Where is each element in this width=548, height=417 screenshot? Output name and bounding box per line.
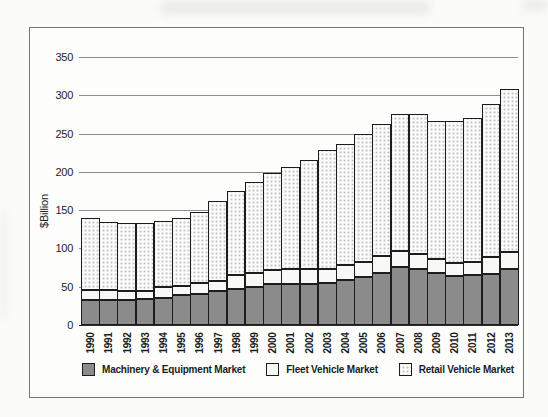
- bar-segment-2010: [445, 121, 464, 263]
- bar-segment-2007: [391, 251, 410, 267]
- x-axis-label-2006: 2006: [376, 332, 387, 353]
- x-axis-label-2010: 2010: [449, 332, 460, 353]
- x-axis-label-1995: 1995: [176, 332, 187, 353]
- bar-segment-2008: [409, 114, 428, 254]
- bar-segment-1992: [117, 291, 136, 300]
- bar-segment-2006: [372, 256, 391, 273]
- bar-segment-2009: [427, 121, 446, 259]
- bar-segment-2003: [318, 283, 337, 325]
- x-axis-label-1990: 1990: [85, 332, 96, 353]
- bar-segment-2006: [372, 273, 391, 325]
- legend-swatch: [399, 363, 412, 376]
- x-axis-label-1994: 1994: [157, 332, 168, 353]
- bar-segment-1990: [81, 300, 100, 325]
- x-axis-label-1991: 1991: [103, 332, 114, 353]
- page-bleedthrough-artifact: [522, 0, 548, 10]
- bar-segment-1994: [154, 298, 173, 325]
- y-tick-label-250: 250: [30, 127, 73, 141]
- bar-segment-2004: [336, 280, 355, 325]
- legend-item-1: Machinery & Equipment Market: [82, 363, 245, 376]
- bar-segment-2011: [463, 275, 482, 325]
- bar-segment-2005: [354, 277, 373, 325]
- x-axis-label-1999: 1999: [248, 332, 259, 353]
- x-axis-label-1992: 1992: [121, 332, 132, 353]
- legend-label: Fleet Vehicle Market: [286, 364, 378, 375]
- bar-segment-2007: [391, 114, 410, 251]
- legend-swatch: [266, 363, 279, 376]
- x-axis-label-1997: 1997: [212, 332, 223, 353]
- legend-label: Retail Vehicle Market: [419, 364, 514, 375]
- bar-segment-2000: [263, 270, 282, 284]
- x-axis-label-2007: 2007: [394, 332, 405, 353]
- bar-segment-1997: [208, 281, 227, 291]
- bar-segment-2008: [409, 254, 428, 269]
- bar-segment-2005: [354, 134, 373, 263]
- bar-segment-1998: [227, 275, 246, 289]
- bar-segment-1999: [245, 182, 264, 273]
- bar-segment-2004: [336, 265, 355, 280]
- bar-segment-2009: [427, 273, 446, 325]
- bar-segment-2008: [409, 269, 428, 325]
- bar-segment-2012: [482, 104, 501, 257]
- x-axis-label-1998: 1998: [230, 332, 241, 353]
- x-axis-label-2002: 2002: [303, 332, 314, 353]
- bar-segment-2010: [445, 263, 464, 276]
- x-axis-label-2009: 2009: [431, 332, 442, 353]
- bar-segment-1995: [172, 286, 191, 295]
- bar-segment-2000: [263, 173, 282, 269]
- bar-segment-2006: [372, 124, 391, 256]
- bar-segment-2002: [300, 160, 319, 269]
- legend-item-3: Retail Vehicle Market: [399, 363, 514, 376]
- bar-segment-2007: [391, 267, 410, 325]
- bar-segment-1998: [227, 289, 246, 325]
- bar-segment-2013: [500, 89, 519, 252]
- bar-segment-1996: [190, 294, 209, 325]
- bar-segment-2010: [445, 276, 464, 325]
- bar-segment-1991: [99, 290, 118, 300]
- bar-segment-1994: [154, 287, 173, 298]
- x-axis-label-2001: 2001: [285, 332, 296, 353]
- x-axis-baseline: [79, 325, 518, 326]
- bar-segment-1996: [190, 212, 209, 282]
- bar-segment-1996: [190, 283, 209, 294]
- bar-segment-1993: [136, 299, 155, 325]
- bar-segment-1994: [154, 221, 173, 288]
- x-axis-label-2013: 2013: [503, 332, 514, 353]
- bar-segment-1998: [227, 191, 246, 275]
- bar-segment-1990: [81, 290, 100, 300]
- bar-segment-2013: [500, 269, 519, 325]
- bar-segment-1991: [99, 300, 118, 325]
- legend: Machinery & Equipment MarketFleet Vehicl…: [82, 359, 514, 379]
- y-tick-label-150: 150: [30, 203, 73, 217]
- plot-area: [81, 57, 518, 325]
- x-axis-label-1993: 1993: [139, 332, 150, 353]
- bar-segment-1999: [245, 273, 264, 287]
- bar-segment-2002: [300, 269, 319, 284]
- bar-segment-2003: [318, 269, 337, 283]
- bar-segment-2003: [318, 150, 337, 269]
- bar-segment-1997: [208, 291, 227, 325]
- page-bleedthrough-artifact: [160, 1, 430, 14]
- bar-segment-1992: [117, 223, 136, 290]
- bar-segment-2002: [300, 284, 319, 325]
- legend-swatch: [82, 363, 95, 376]
- chart-frame: $Billion 050100150200250300350 199019911…: [29, 27, 524, 398]
- bar-segment-2009: [427, 259, 446, 273]
- bar-segment-2012: [482, 257, 501, 274]
- bar-segment-2004: [336, 144, 355, 266]
- page-bleedthrough-artifact: [0, 210, 7, 320]
- bar-segment-1990: [81, 218, 100, 290]
- bar-segment-2001: [281, 269, 300, 284]
- x-axis-label-2008: 2008: [412, 332, 423, 353]
- bar-segment-2012: [482, 274, 501, 325]
- bar-segment-2011: [463, 118, 482, 262]
- bar-segment-2001: [281, 167, 300, 269]
- bar-segment-1993: [136, 223, 155, 290]
- x-axis-label-2005: 2005: [358, 332, 369, 353]
- bar-segment-2013: [500, 252, 519, 269]
- bar-segment-2000: [263, 284, 282, 325]
- legend-label: Machinery & Equipment Market: [102, 364, 245, 375]
- bar-segment-1995: [172, 295, 191, 325]
- bar-segment-1999: [245, 287, 264, 325]
- bar-segment-2001: [281, 284, 300, 325]
